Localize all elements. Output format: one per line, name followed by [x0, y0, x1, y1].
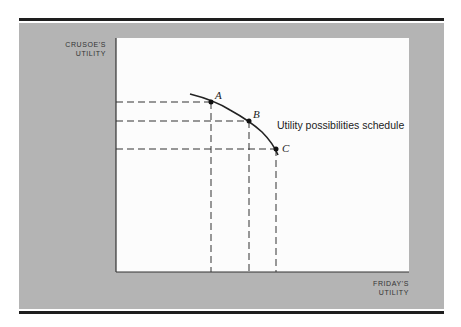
utility-possibilities-curve	[190, 94, 278, 155]
x-axis-label: FRIDAY'S UTILITY	[340, 279, 409, 297]
point-c-marker	[274, 147, 279, 152]
bottom-rule	[19, 311, 444, 314]
y-axis-label-line2: UTILITY	[50, 49, 106, 58]
x-axis-label-line1: FRIDAY'S	[340, 279, 409, 288]
x-axis-label-line2: UTILITY	[340, 288, 409, 297]
point-a-label: A	[215, 89, 222, 101]
point-b-label: B	[253, 108, 260, 120]
point-a-marker	[209, 100, 214, 105]
y-axis-label: CRUSOE'S UTILITY	[50, 40, 106, 58]
point-c-label: C	[282, 142, 289, 154]
y-axis-label-line1: CRUSOE'S	[50, 40, 106, 49]
curve-label: Utility possibilities schedule	[277, 119, 404, 131]
point-b-marker	[247, 119, 252, 124]
